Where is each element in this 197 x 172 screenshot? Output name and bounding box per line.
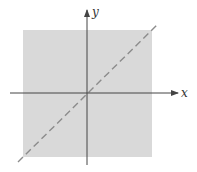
y-axis-label: y [91,5,99,19]
x-axis-label: x [181,86,188,100]
coordinate-diagram: x y [0,0,197,172]
